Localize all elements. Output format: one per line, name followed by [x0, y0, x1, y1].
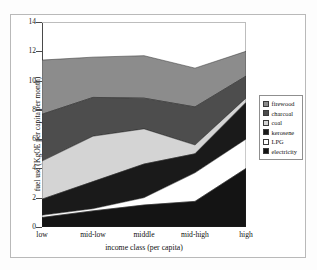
legend-label: LPG — [272, 138, 284, 145]
legend-item-charcoal: charcoal — [263, 109, 300, 118]
legend-swatch-kerosene — [263, 129, 269, 135]
legend-label: kerosene — [272, 129, 295, 136]
legend-label: firewood — [272, 100, 295, 107]
y-axis-tick-label: 2 — [14, 194, 36, 202]
legend-item-coal: coal — [263, 118, 300, 127]
legend-item-firewood: firewood — [263, 99, 300, 108]
x-axis-tick-label: mid-high — [172, 230, 218, 239]
legend-swatch-LPG — [263, 139, 269, 145]
legend-swatch-firewood — [263, 101, 269, 107]
x-axis-tick-label: high — [223, 230, 269, 239]
legend-swatch-charcoal — [263, 110, 269, 116]
y-axis-tick-label: 6 — [14, 135, 36, 143]
legend-label: charcoal — [272, 110, 294, 117]
x-axis-tick-label: middle — [121, 230, 167, 239]
chart-legend: firewoodcharcoalcoalkeroseneLPGelectrici… — [259, 95, 303, 160]
legend-label: coal — [272, 119, 283, 126]
y-axis-tick-label: 4 — [14, 164, 36, 172]
stacked-area-series — [42, 22, 246, 227]
legend-swatch-coal — [263, 120, 269, 126]
legend-label: electricity — [272, 148, 298, 155]
legend-swatch-electricity — [263, 148, 269, 154]
legend-item-LPG: LPG — [263, 137, 300, 146]
x-axis-tick-label: low — [19, 230, 65, 239]
legend-item-electricity: electricity — [263, 147, 300, 156]
y-axis-tick-label: 10 — [14, 77, 36, 85]
y-axis-tick — [36, 227, 42, 228]
y-axis-tick-label: 14 — [14, 18, 36, 26]
x-axis-tick-label: mid-low — [70, 230, 116, 239]
x-axis-title: income class (per capita) — [42, 243, 246, 252]
legend-item-kerosene: kerosene — [263, 128, 300, 137]
y-axis-tick-label: 12 — [14, 47, 36, 55]
y-axis-tick-label: 8 — [14, 106, 36, 114]
chart-figure: fuel use (KgOE per capita per month) 024… — [0, 0, 317, 270]
